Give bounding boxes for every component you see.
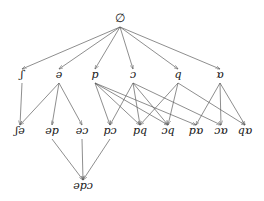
lattice-node-q: q [174, 68, 181, 81]
lattice-node-schwa-p: əp [45, 124, 59, 137]
lattice-node-openo-q: ɔq [161, 124, 174, 137]
lattice-edge-root-to-esh [22, 27, 120, 69]
lattice-node-openo: ɔ [130, 68, 136, 81]
lattice-edge-p-to-p-q [95, 83, 140, 125]
lattice-diagram: ∅ʃəpɔqɒʃəəpəɔpɔpqɔqpɒɔɒqɒəpɔ [0, 0, 264, 201]
lattice-node-esh-schwa: ʃə [12, 124, 25, 137]
lattice-edge-openo-to-p-openo [110, 83, 133, 125]
lattice-node-root: ∅ [115, 11, 125, 25]
lattice-edge-schwa-openo-to-schwa-p-openo [82, 139, 83, 180]
lattice-node-openo-alpha: ɔɒ [214, 124, 228, 137]
lattice-edge-schwa-p-to-schwa-p-openo [52, 139, 83, 180]
lattice-edge-q-to-q-alpha [178, 83, 245, 125]
lattice-edge-alpha-to-q-alpha [220, 83, 245, 125]
lattice-node-q-alpha: qɒ [238, 124, 253, 137]
lattice-node-esh: ʃ [18, 68, 26, 81]
lattice-edge-root-to-alpha [120, 27, 220, 69]
lattice-edge-esh-to-esh-schwa [20, 83, 22, 125]
lattice-node-p: p [91, 68, 98, 81]
lattice-node-p-q: pq [133, 124, 147, 137]
lattice-edge-alpha-to-openo-alpha [220, 83, 221, 125]
edge-layer [20, 27, 245, 180]
lattice-svg-canvas: ∅ʃəpɔqɒʃəəpəɔpɔpqɔqpɒɔɒqɒəpɔ [0, 0, 264, 201]
lattice-edge-root-to-p [95, 27, 120, 69]
node-layer: ∅ʃəpɔqɒʃəəpəɔpɔpqɔqpɒɔɒqɒəpɔ [12, 11, 253, 192]
lattice-node-schwa: ə [56, 68, 63, 81]
lattice-edge-p-to-openo-q [95, 83, 168, 125]
lattice-node-p-openo: pɔ [103, 124, 116, 137]
lattice-node-p-alpha: pɒ [189, 124, 204, 137]
lattice-edge-schwa-to-schwa-openo [59, 83, 82, 125]
lattice-edge-p-to-p-openo [95, 83, 110, 125]
lattice-node-schwa-p-openo: əpɔ [73, 179, 93, 192]
lattice-edge-p-openo-to-schwa-p-openo [83, 139, 110, 180]
lattice-edge-root-to-schwa [59, 27, 120, 69]
lattice-node-alpha: ɒ [216, 68, 224, 81]
lattice-edge-openo-to-openo-q [133, 83, 168, 125]
lattice-edge-root-to-openo [120, 27, 133, 69]
lattice-edge-openo-to-p-q [133, 83, 140, 125]
lattice-node-schwa-openo: əɔ [76, 124, 89, 137]
